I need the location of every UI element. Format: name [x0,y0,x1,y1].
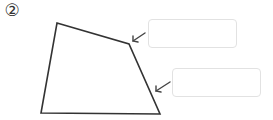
arrow-icon [156,82,170,92]
arrow-icon [133,33,145,42]
quadrilateral-figure [0,0,273,120]
answer-box-1[interactable] [148,19,237,48]
answer-box-2[interactable] [172,68,261,97]
quadrilateral-shape [41,23,160,114]
